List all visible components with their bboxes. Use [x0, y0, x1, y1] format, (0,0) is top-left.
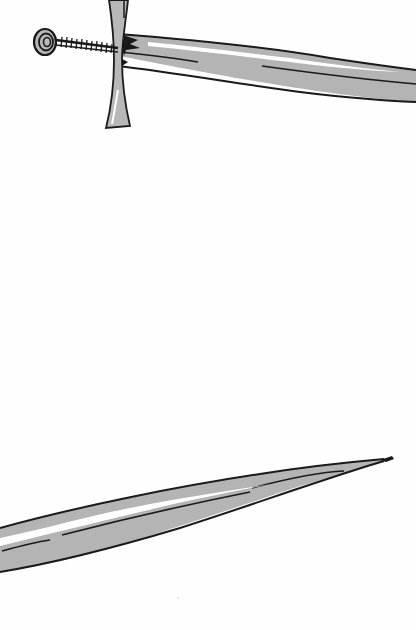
sword-hilt-and-blade-base [34, 0, 416, 128]
blade-upper [118, 34, 416, 102]
sword-illustration [0, 0, 416, 630]
blade-tip-section [0, 456, 394, 572]
pommel [34, 29, 56, 55]
grip [56, 37, 118, 53]
sword-drawing [0, 0, 416, 630]
crossguard [106, 0, 130, 128]
